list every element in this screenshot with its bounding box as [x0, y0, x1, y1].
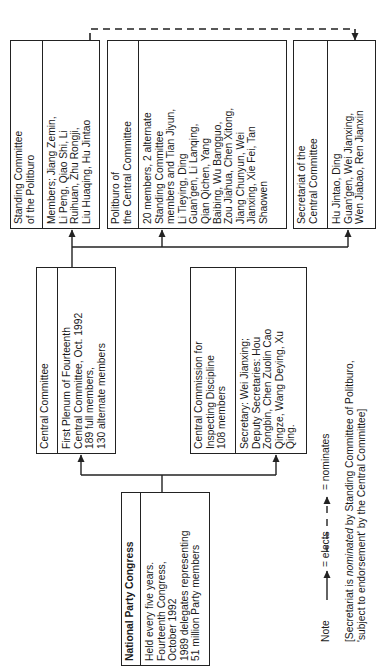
- politburo-body: 20 members, 2 alternate Standing Committ…: [139, 41, 286, 228]
- central-committee-title: Central Committee: [37, 268, 58, 453]
- npc-body: Held every five years. Fourteenth Congre…: [141, 493, 209, 665]
- footnote-part1: [Secretariat is: [344, 576, 355, 642]
- legend-note-label: Note: [320, 620, 332, 642]
- discipline-commission-title: Central Commission for Inspecting Discip…: [191, 268, 236, 453]
- standing-committee-title: Standing Committee of the Politburo: [11, 41, 43, 228]
- secretariat-title: Secretariat of the Central Committee: [294, 41, 328, 228]
- discipline-commission-box: Central Commission for Inspecting Discip…: [190, 267, 307, 454]
- national-party-congress-box: National Party Congress Held every five …: [121, 492, 210, 666]
- nominates-dashed-line: [90, 29, 355, 40]
- legend-nominates-text: = nominates: [320, 434, 332, 490]
- legend-elects-text: = elects: [320, 531, 332, 567]
- politburo-box: Politburo of the Central Committee 20 me…: [107, 40, 287, 229]
- secretariat-body: Hu Jintao, Ding Guan'gen, Wei Jianxing, …: [328, 41, 375, 228]
- central-committee-box: Central Committee First Plenum of Fourte…: [36, 267, 116, 454]
- party-structure-diagram: National Party Congress Held every five …: [0, 0, 383, 668]
- standing-committee-box: Standing Committee of the Politburo Memb…: [10, 40, 100, 229]
- discipline-commission-body: Secretary: Wei Jianxing; Deputy Secretar…: [236, 268, 306, 453]
- central-committee-body: First Plenum of Fourteenth Central Commi…: [58, 268, 115, 453]
- footnote-part2: by Standing Committee of Politburo,: [344, 360, 355, 528]
- footnote-italic: nominated: [344, 528, 355, 576]
- standing-committee-body: Members; Jiang Zemin, Li Peng, Qiao Shi,…: [43, 41, 99, 228]
- npc-title: National Party Congress: [122, 493, 141, 665]
- footnote: [Secretariat is nominated by Standing Co…: [344, 360, 367, 642]
- footnote-line2: 'subject to endorsement' by the Central …: [356, 409, 367, 642]
- secretariat-box: Secretariat of the Central Committee Hu …: [293, 40, 376, 229]
- politburo-title: Politburo of the Central Committee: [108, 41, 139, 228]
